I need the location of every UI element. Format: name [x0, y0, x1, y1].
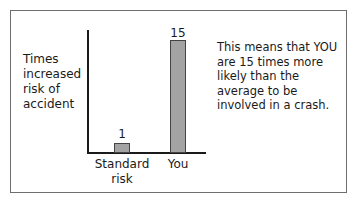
bar-you: [170, 40, 186, 153]
bar-standard-risk: [114, 143, 130, 153]
bar-value-you: 15: [163, 26, 193, 40]
bar-value-standard: 1: [107, 127, 137, 141]
x-label-standard-line1: Standard: [92, 157, 152, 172]
x-label-you: You: [148, 157, 208, 172]
annotation-text: This means that YOU are 15 times more li…: [217, 40, 347, 113]
x-axis-line: [87, 152, 206, 154]
y-axis-line: [87, 30, 89, 154]
x-label-standard-risk: Standard risk: [92, 157, 152, 187]
x-label-standard-line2: risk: [92, 172, 152, 187]
x-label-you-line1: You: [148, 157, 208, 172]
y-axis-label: Times increased risk of accident: [23, 52, 83, 112]
